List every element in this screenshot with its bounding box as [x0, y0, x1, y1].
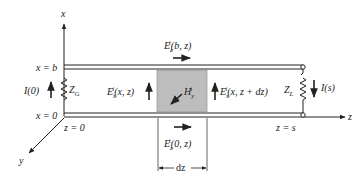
- z-axis-label: z: [348, 112, 352, 122]
- y-axis-label: y: [19, 156, 23, 166]
- bottom-conductor: [64, 113, 305, 117]
- x-equals-b-label: x = b: [36, 63, 57, 73]
- x-axis-label: x: [61, 9, 65, 19]
- differential-element: [157, 70, 207, 112]
- transmission-line-diagram: [0, 0, 363, 180]
- right-field-label: Exi(x, z + dz): [220, 86, 268, 100]
- generator-impedance-label: ZG: [69, 85, 80, 98]
- load-current-label: I(s): [321, 83, 335, 93]
- dz-label: dz: [176, 163, 185, 173]
- source-current-label: I(0): [24, 86, 39, 96]
- x-equals-0-label: x = 0: [36, 111, 57, 121]
- z-equals-0-label: z = 0: [64, 123, 85, 133]
- z-equals-s-label: z = s: [276, 123, 296, 133]
- magnetic-field-label: Hyi: [184, 86, 192, 100]
- load-impedance-label: ZL: [284, 85, 293, 98]
- load-impedance-icon: [300, 69, 306, 113]
- y-axis: [29, 118, 64, 153]
- top-conductor: [64, 65, 305, 69]
- top-field-label: Ezi(b, z): [164, 40, 191, 54]
- left-field-label: Exi(x, z): [107, 86, 134, 100]
- bottom-field-label: Ezi(0, z): [164, 138, 191, 152]
